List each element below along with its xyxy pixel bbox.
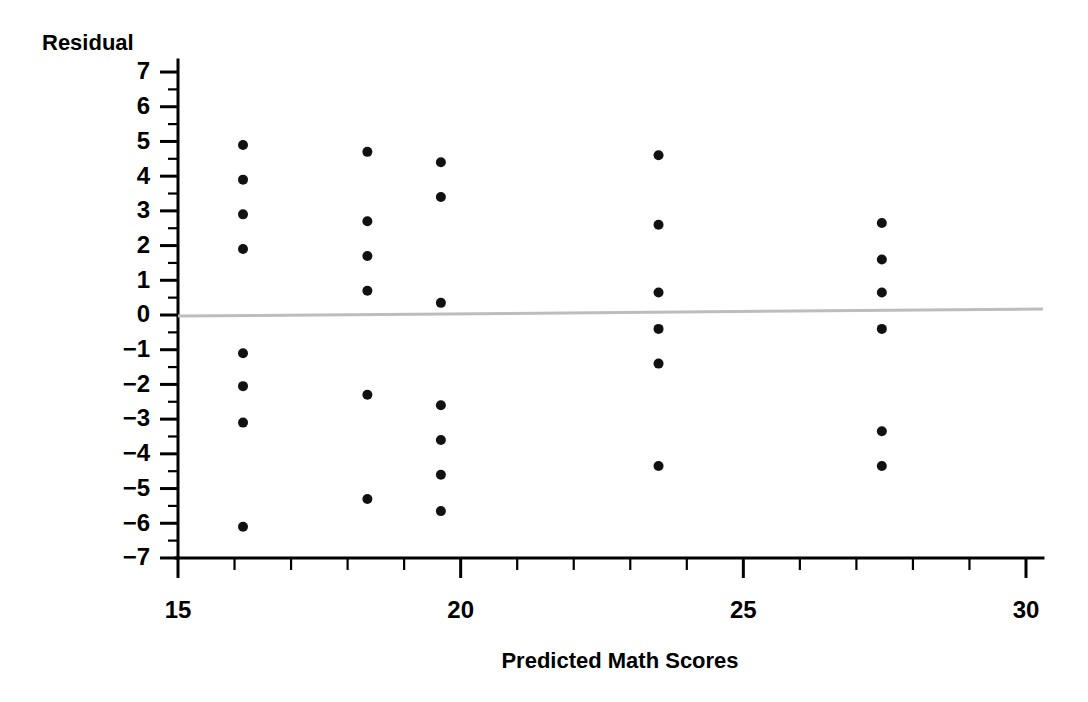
y-tick-label: 7: [137, 57, 150, 84]
data-point: [238, 418, 248, 428]
y-tick-label: 5: [137, 127, 150, 154]
zero-residual-line: [178, 309, 1043, 316]
data-point: [877, 254, 887, 264]
data-point: [238, 522, 248, 532]
data-point: [362, 390, 372, 400]
y-tick-label: 1: [137, 266, 150, 293]
data-point: [877, 461, 887, 471]
data-point: [362, 494, 372, 504]
y-tick-label: −2: [123, 370, 150, 397]
data-point: [238, 348, 248, 358]
x-tick-label: 20: [447, 596, 474, 623]
x-tick-label: 15: [165, 596, 192, 623]
x-tick-label: 30: [1013, 596, 1040, 623]
y-tick-label: −4: [123, 439, 151, 466]
x-axis-ticks: 15202530: [165, 558, 1040, 623]
data-point: [654, 324, 664, 334]
data-point: [877, 426, 887, 436]
data-point: [238, 381, 248, 391]
data-point: [654, 287, 664, 297]
data-point: [362, 216, 372, 226]
x-axis-title: Predicted Math Scores: [501, 648, 738, 673]
data-point: [238, 140, 248, 150]
data-point: [877, 218, 887, 228]
data-point: [436, 470, 446, 480]
data-point: [654, 359, 664, 369]
y-tick-label: −7: [123, 543, 150, 570]
y-tick-label: 6: [137, 92, 150, 119]
data-point: [238, 244, 248, 254]
data-point: [238, 209, 248, 219]
data-point: [436, 298, 446, 308]
data-point: [436, 192, 446, 202]
y-tick-label: −6: [123, 509, 150, 536]
data-point: [436, 157, 446, 167]
data-point: [436, 435, 446, 445]
y-tick-label: 2: [137, 231, 150, 258]
data-point: [362, 286, 372, 296]
data-point: [654, 220, 664, 230]
y-axis-ticks: −7−6−5−4−3−2−101234567: [123, 57, 178, 570]
data-point: [436, 400, 446, 410]
y-tick-label: −3: [123, 404, 150, 431]
data-point: [238, 175, 248, 185]
residual-plot-container: Residual −7−6−5−4−3−2−101234567 15202530…: [0, 0, 1088, 702]
y-tick-label: 3: [137, 196, 150, 223]
data-point: [877, 324, 887, 334]
data-point: [362, 147, 372, 157]
data-point: [362, 251, 372, 261]
y-tick-label: 0: [137, 300, 150, 327]
y-axis-title-group: Residual: [42, 30, 134, 55]
data-point: [654, 150, 664, 160]
y-tick-label: 4: [137, 162, 151, 189]
y-tick-label: −5: [123, 474, 150, 501]
y-tick-label: −1: [123, 335, 150, 362]
residual-scatter-plot: Residual −7−6−5−4−3−2−101234567 15202530…: [0, 0, 1088, 702]
data-point: [877, 287, 887, 297]
data-point: [436, 506, 446, 516]
y-axis-title: Residual: [42, 30, 134, 55]
x-tick-label: 25: [730, 596, 757, 623]
data-point: [654, 461, 664, 471]
data-points-layer: [238, 140, 887, 532]
